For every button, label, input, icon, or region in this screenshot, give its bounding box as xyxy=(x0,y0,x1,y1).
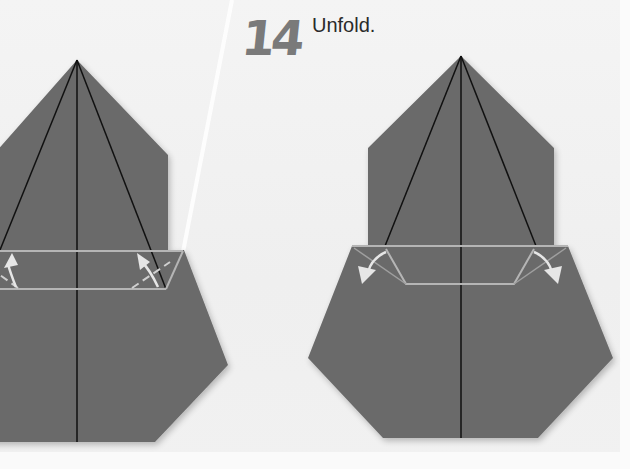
step-number: 14 xyxy=(239,14,303,62)
page-crease-highlight xyxy=(183,0,232,252)
step-instruction: Unfold. xyxy=(312,15,375,35)
origami-diagram xyxy=(0,0,630,469)
